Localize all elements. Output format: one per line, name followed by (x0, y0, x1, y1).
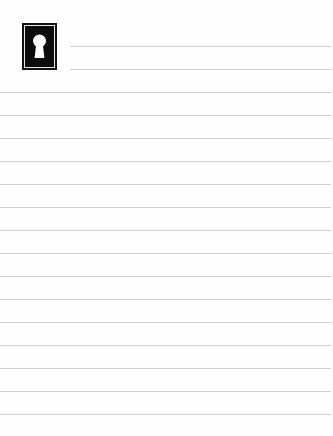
ruled-line (0, 207, 331, 208)
ruled-line (0, 345, 331, 346)
ruled-line (0, 322, 331, 323)
ruled-line (0, 253, 331, 254)
ruled-line (0, 414, 331, 415)
ruled-line (0, 138, 331, 139)
ruled-line (0, 115, 331, 116)
header-rule-line (70, 46, 331, 47)
keyhole-icon (25, 26, 54, 67)
ruled-line (0, 184, 331, 185)
ruled-line (0, 299, 331, 300)
keyhole-badge-inner (24, 25, 55, 68)
ruled-line (0, 391, 331, 392)
ruled-line (0, 276, 331, 277)
ruled-line (0, 92, 331, 93)
keyhole-badge (22, 23, 57, 70)
header-rule-line (70, 69, 331, 70)
ruled-line (0, 161, 331, 162)
ruled-line (0, 368, 331, 369)
ruled-line (0, 230, 331, 231)
notepaper-page (0, 0, 333, 436)
